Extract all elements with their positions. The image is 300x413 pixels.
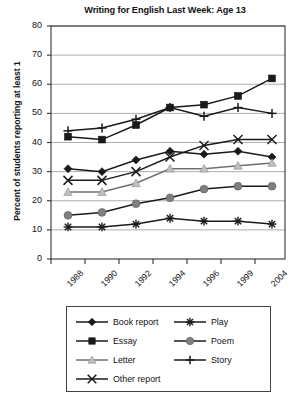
- legend-swatch: [75, 353, 109, 367]
- chart-legend: Book reportEssayLetterOther reportPlayPo…: [66, 306, 271, 392]
- diamond-marker: [132, 156, 140, 164]
- circle-marker: [186, 337, 193, 344]
- legend-item[interactable]: Poem: [173, 332, 234, 350]
- legend-swatch: [75, 372, 109, 386]
- legend-swatch: [173, 315, 207, 329]
- legend-swatch: [75, 334, 109, 348]
- legend-label: Essay: [113, 336, 137, 346]
- square-marker: [99, 136, 106, 143]
- triangle-marker: [132, 179, 140, 187]
- legend-label: Book report: [113, 317, 158, 327]
- legend-label: Other report: [113, 374, 160, 384]
- legend-item[interactable]: Play: [173, 313, 228, 331]
- circle-marker: [64, 211, 72, 219]
- circle-marker: [132, 200, 140, 208]
- data-series-group: [64, 75, 277, 231]
- legend-label: Poem: [211, 336, 234, 346]
- diamond-marker: [234, 147, 242, 155]
- square-marker: [201, 101, 208, 108]
- legend-swatch: [173, 334, 207, 348]
- legend-item[interactable]: Other report: [75, 370, 160, 388]
- square-marker: [269, 75, 276, 82]
- square-marker: [89, 338, 95, 344]
- data-series: [64, 159, 276, 196]
- diamond-marker: [200, 150, 208, 158]
- circle-marker: [200, 185, 208, 193]
- legend-item[interactable]: Book report: [75, 313, 158, 331]
- diamond-marker: [98, 168, 106, 176]
- circle-marker: [268, 182, 276, 190]
- plot-area: [0, 0, 300, 300]
- circle-marker: [234, 182, 242, 190]
- legend-item[interactable]: Essay: [75, 332, 137, 350]
- circle-marker: [98, 209, 106, 217]
- legend-item[interactable]: Letter: [75, 351, 136, 369]
- legend-label: Letter: [113, 355, 136, 365]
- circle-marker: [166, 194, 174, 202]
- series-line: [68, 140, 272, 181]
- legend-label: Story: [211, 355, 232, 365]
- legend-item[interactable]: Story: [173, 351, 232, 369]
- chart-figure: Writing for English Last Week: Age 13 Pe…: [0, 0, 300, 413]
- data-series: [64, 103, 277, 135]
- axis-ticks: [47, 26, 255, 264]
- diamond-marker: [88, 318, 96, 326]
- legend-label: Play: [211, 317, 228, 327]
- legend-swatch: [173, 353, 207, 367]
- square-marker: [235, 93, 242, 100]
- data-series: [64, 214, 277, 232]
- legend-swatch: [75, 315, 109, 329]
